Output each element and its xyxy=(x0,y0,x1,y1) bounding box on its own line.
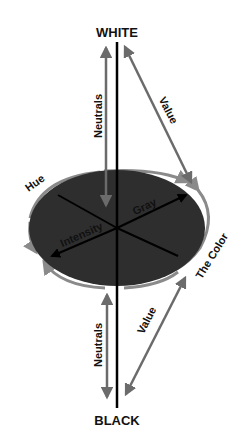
label-hue: Hue xyxy=(23,172,47,194)
value-arrow-top xyxy=(125,47,191,182)
label-black: BLACK xyxy=(94,413,140,428)
label-neutrals-top: Neutrals xyxy=(92,94,104,138)
label-white: WHITE xyxy=(96,25,138,40)
color-solid-diagram: WHITE BLACK Neutrals Neutrals Value Valu… xyxy=(0,0,243,438)
label-value-bottom: Value xyxy=(135,305,159,336)
value-arrow-bottom xyxy=(126,278,185,394)
label-neutrals-bottom: Neutrals xyxy=(92,323,104,367)
